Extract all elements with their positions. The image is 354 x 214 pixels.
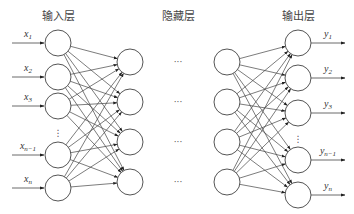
- edge: [239, 145, 285, 157]
- hidden-node: [214, 129, 240, 155]
- input-label: x1: [23, 28, 32, 41]
- edge: [239, 164, 286, 178]
- input-label: x3: [23, 91, 32, 104]
- hidden-node: [117, 89, 143, 115]
- connection-edges: [64, 46, 292, 193]
- hidden-node: [117, 169, 143, 195]
- edge: [65, 87, 123, 171]
- input-label: xn: [23, 173, 32, 186]
- output-node: [285, 182, 311, 208]
- hidden-node: [214, 169, 240, 195]
- edge: [64, 73, 123, 177]
- output-node: [285, 100, 311, 126]
- edge: [237, 149, 288, 187]
- edge: [239, 46, 286, 58]
- edge: [238, 118, 286, 137]
- input-node: [45, 64, 71, 90]
- horizontal-ellipsis: ···: [174, 177, 183, 187]
- input-layer-title: 输入层: [42, 9, 75, 23]
- edge: [69, 112, 118, 137]
- input-node: [45, 142, 71, 168]
- vertical-ellipsis: ⋮: [294, 134, 303, 144]
- output-label: y1: [323, 28, 332, 41]
- neural-network-diagram: 输入层 隐藏层 输出层 x1x2x3xn−1xny1y2y3yn−1yn ⋮⋮·…: [0, 0, 354, 214]
- output-layer-title: 输出层: [282, 9, 315, 23]
- horizontal-ellipsis: ···: [174, 97, 183, 107]
- input-label: xn−1: [19, 140, 36, 153]
- hidden-node: [214, 49, 240, 75]
- hidden-node: [214, 89, 240, 115]
- input-node: [45, 175, 71, 201]
- edge: [66, 72, 122, 145]
- input-node: [45, 93, 71, 119]
- horizontal-ellipsis: ···: [174, 57, 183, 67]
- edge: [70, 81, 118, 98]
- edge: [239, 184, 285, 192]
- edge: [68, 110, 120, 148]
- edge: [234, 89, 291, 172]
- output-label: yn−1: [319, 145, 336, 158]
- output-label: y3: [323, 98, 332, 111]
- horizontal-ellipsis: ···: [174, 137, 183, 147]
- hidden-layer-title: 隐藏层: [162, 10, 195, 23]
- edge: [70, 159, 118, 177]
- output-node: [285, 147, 311, 173]
- edge: [70, 183, 117, 187]
- output-label: yn: [323, 180, 332, 193]
- edge: [65, 53, 122, 131]
- output-label: y2: [323, 63, 332, 76]
- hidden-node: [117, 49, 143, 75]
- edge: [234, 112, 290, 185]
- output-node: [285, 65, 311, 91]
- edge: [68, 149, 119, 181]
- edge: [70, 103, 117, 106]
- hidden-node: [117, 129, 143, 155]
- output-node: [285, 30, 311, 56]
- input-label: x2: [23, 62, 32, 75]
- vertical-ellipsis: ⋮: [54, 128, 63, 138]
- edge: [70, 46, 117, 59]
- input-node: [45, 30, 71, 56]
